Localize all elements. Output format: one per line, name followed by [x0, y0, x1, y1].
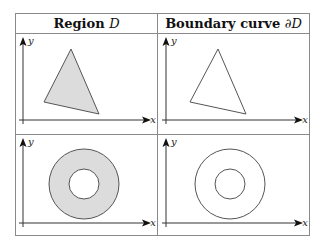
y-axis-label: y — [170, 136, 177, 147]
header-region-label: Region — [53, 16, 109, 31]
y-axis-label: y — [27, 35, 34, 46]
region-triangle-cell: y x — [16, 34, 157, 134]
x-axis-label: x — [302, 114, 308, 125]
boundary-triangle-figure: y x — [158, 34, 309, 134]
filled-triangle — [44, 49, 99, 114]
x-axis-label: x — [150, 217, 156, 228]
header-boundary: Boundary curve ∂D — [158, 14, 309, 33]
x-axis-label: x — [150, 114, 156, 125]
y-axis-label: y — [27, 136, 34, 147]
annulus-inner-circle — [69, 169, 99, 199]
boundary-annulus-cell: y x — [158, 135, 309, 235]
triangle-outline — [190, 49, 246, 114]
boundary-triangle-cell: y x — [158, 34, 309, 134]
outer-boundary-circle — [195, 149, 265, 219]
region-triangle-figure: y x — [16, 34, 157, 134]
region-annulus-figure: y x — [16, 135, 157, 235]
x-axis-label: x — [302, 217, 308, 228]
header-region-symbol: D — [109, 16, 119, 31]
region-annulus-cell: y x — [16, 135, 157, 235]
boundary-annulus-figure: y x — [158, 135, 309, 235]
region-boundary-table: Region D Boundary curve ∂D y x y x — [15, 13, 310, 236]
header-boundary-symbol: ∂D — [285, 16, 302, 31]
y-axis-label: y — [170, 35, 177, 46]
header-region: Region D — [16, 14, 157, 33]
inner-boundary-circle — [215, 169, 245, 199]
header-boundary-label: Boundary curve — [165, 16, 285, 31]
